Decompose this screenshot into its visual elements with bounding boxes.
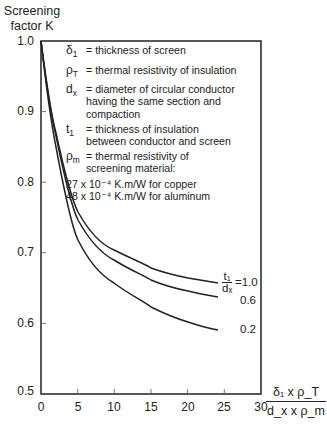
x-tick-label-0: 0: [31, 400, 51, 414]
subscript: x: [73, 89, 77, 99]
subscript: m: [73, 156, 80, 166]
legend-desc: = thermal resistivity of screening mater…: [86, 150, 236, 174]
x-axis-title: δ₁ x ρ_T d_x x ρ_m: [266, 385, 326, 418]
curve-label-0.2: 0.2: [240, 323, 256, 335]
x-tick-label-15: 15: [141, 400, 161, 414]
legend-desc: = thickness of screen: [86, 44, 236, 61]
legend-note-copper: 27 x 10⁻⁴ K.m/W for copper: [66, 178, 236, 190]
legend-item-delta1: δ1 = thickness of screen: [66, 44, 236, 61]
x-tick-label-25: 25: [214, 400, 234, 414]
legend-item-rhoT: ρT = thermal resistivity of insulation: [66, 64, 236, 81]
legend-desc: = thermal resistivity of insulation: [86, 64, 236, 81]
symbol: δ: [66, 43, 73, 57]
subscript: 1: [73, 49, 78, 59]
y-tick-label-0.6: 0.6: [4, 316, 34, 330]
x-tick-label-10: 10: [104, 400, 124, 414]
curve-label-0.6: 0.6: [240, 294, 256, 306]
legend-desc: = thickness of insulation between conduc…: [86, 123, 236, 147]
subscript: 1: [69, 128, 74, 138]
curve-label-1.0: =1.0: [235, 276, 258, 288]
y-tick-label-0.9: 0.9: [4, 104, 34, 118]
legend-item-dx: dx = diameter of circular conductor havi…: [66, 83, 236, 120]
x-axis-title-denominator: d_x x ρ_m: [266, 402, 326, 418]
symbol: d: [66, 82, 73, 96]
subscript: T: [73, 69, 78, 79]
symbol: ρ: [66, 149, 73, 163]
y-tick-label-0.5: 0.5: [4, 384, 34, 398]
curve-label-ratio: t₁ dₓ: [222, 271, 232, 294]
y-tick-label-1.0: 1.0: [4, 34, 34, 48]
symbol: ρ: [66, 63, 73, 77]
legend-box: δ1 = thickness of screen ρT = thermal re…: [66, 44, 236, 202]
legend-desc: = diameter of circular conductor having …: [86, 83, 236, 120]
y-tick-label-0.7: 0.7: [4, 245, 34, 259]
legend-item-rhom: ρm = thermal resistivity of screening ma…: [66, 150, 236, 174]
legend-item-t1: t1 = thickness of insulation between con…: [66, 123, 236, 147]
x-axis-title-numerator: δ₁ x ρ_T: [266, 385, 326, 402]
y-tick-label-0.8: 0.8: [4, 175, 34, 189]
ratio-denominator: dₓ: [222, 283, 232, 294]
x-tick-label-5: 5: [68, 400, 88, 414]
legend-note-aluminum: 48 x 10⁻⁴ K.m/W for aluminum: [66, 190, 236, 202]
x-tick-label-20: 20: [178, 400, 198, 414]
